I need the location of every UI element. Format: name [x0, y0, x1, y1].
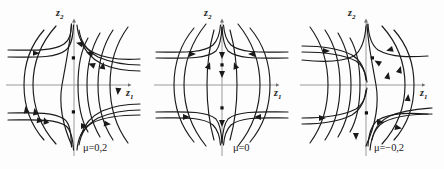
- y-axis-label: z2: [204, 8, 211, 21]
- axis-flow-arrow: [219, 71, 225, 78]
- fixed-point: [371, 56, 374, 59]
- flow-arrow: [37, 117, 45, 124]
- x-axis-label: z1: [274, 88, 281, 101]
- flow-arrow: [115, 88, 122, 96]
- x-axis-label: z1: [420, 88, 427, 101]
- axis-flow-arrow: [219, 52, 225, 59]
- panel-right: z2 z1 μ=−0,2: [296, 0, 444, 169]
- fixed-point: [72, 110, 75, 113]
- axes-right: [300, 22, 422, 156]
- fixed-point: [365, 111, 368, 114]
- flow-arrows-left: [23, 40, 122, 129]
- parameter-label: μ=0: [233, 143, 250, 154]
- fixed-point: [220, 106, 223, 109]
- flow-arrow: [384, 71, 391, 79]
- flow-arrow: [231, 61, 239, 70]
- streamlines-right: [302, 24, 432, 150]
- panel-left: z2 z1 μ=0,2: [0, 0, 148, 169]
- flow-arrow: [385, 46, 393, 54]
- flow-arrow: [104, 121, 112, 128]
- flow-arrow: [353, 133, 359, 140]
- phase-portrait-figure: z2 z1 μ=0,2: [0, 0, 444, 169]
- y-axis-label: z2: [56, 8, 63, 21]
- panel-middle: z2 z1 μ=0: [148, 0, 296, 169]
- flow-arrow: [373, 58, 382, 67]
- flow-arrow: [31, 107, 38, 115]
- parameter-label: μ=−0,2: [374, 143, 404, 154]
- flow-arrow: [205, 61, 213, 70]
- fixed-point: [220, 63, 223, 66]
- parameter-label: μ=0,2: [83, 143, 107, 154]
- y-axis-label: z2: [348, 8, 355, 21]
- fixed-point: [72, 56, 75, 59]
- x-axis-label: z1: [126, 88, 133, 101]
- flow-arrow: [405, 94, 412, 102]
- flow-arrow: [33, 51, 40, 56]
